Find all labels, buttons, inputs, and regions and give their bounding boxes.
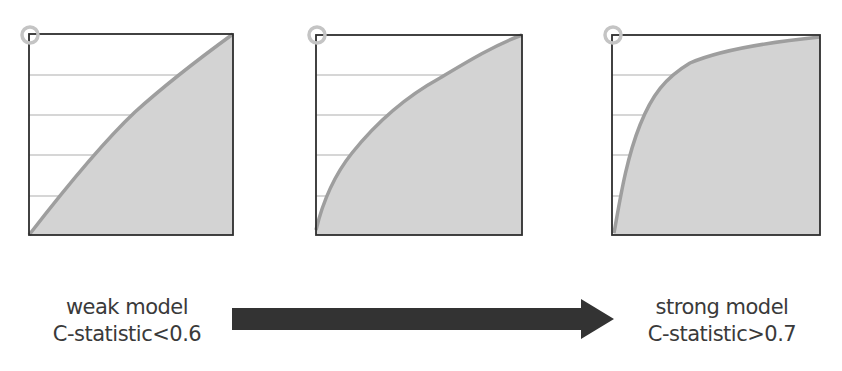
roc-chart-weak (22, 27, 233, 235)
caption-strong-statistic: C-statistic>0.7 (622, 321, 822, 348)
caption-strong-model: strong model C-statistic>0.7 (622, 294, 822, 348)
caption-weak-model: weak model C-statistic<0.6 (30, 294, 224, 348)
caption-strong-title: strong model (622, 294, 822, 321)
caption-weak-title: weak model (30, 294, 224, 321)
caption-weak-statistic: C-statistic<0.6 (30, 321, 224, 348)
roc-chart-strong (605, 27, 820, 235)
progress-arrow-icon (232, 299, 614, 339)
roc-chart-medium (309, 27, 522, 235)
